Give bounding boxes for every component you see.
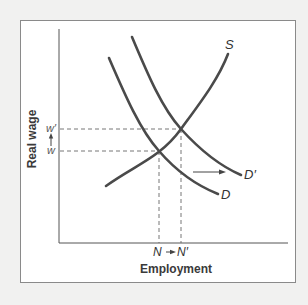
label-d-prime: D′ [244,169,256,181]
demand-curve-d-prime [132,37,241,175]
tick-w: w [47,144,55,156]
tick-n-prime: N′ [177,246,188,258]
employment-increase-arrowhead [170,250,176,254]
tick-n: N [153,246,162,258]
y-axis-title: Real wage [25,99,39,179]
label-s: S [225,39,234,51]
supply-curve-s [106,54,228,186]
tick-w-prime: w′ [46,122,56,134]
x-axis-title: Employment [116,262,236,276]
label-d: D [221,189,230,201]
shift-arrow-head [219,170,226,175]
